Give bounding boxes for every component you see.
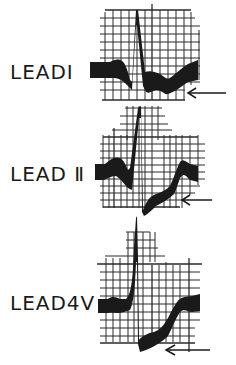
- lead-v4-arrow-icon: [166, 345, 210, 355]
- lead-ii-grid: [100, 106, 205, 208]
- lead-i-arrow-icon: [188, 88, 226, 98]
- ecg-illustration: [0, 0, 236, 365]
- lead-ii-arrow-icon: [182, 195, 212, 205]
